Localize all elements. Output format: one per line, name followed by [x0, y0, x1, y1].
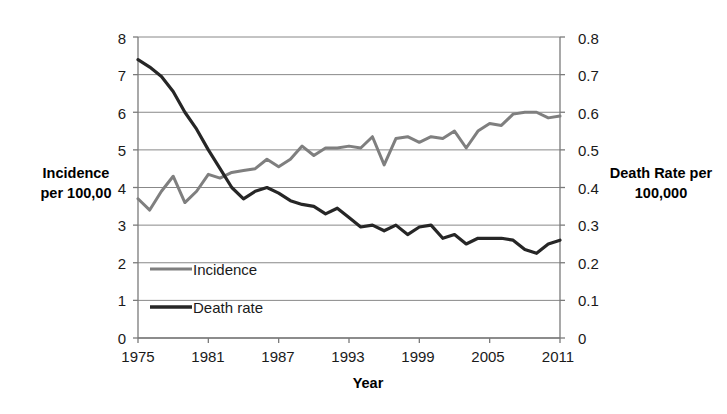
legend-swatches — [150, 269, 192, 307]
gridlines — [138, 37, 560, 338]
data-series — [138, 60, 560, 254]
plot-area — [0, 0, 727, 414]
series-line-incidence — [138, 112, 560, 210]
chart-figure: 8 7 6 5 4 3 2 1 0 0.8 0.7 0.6 0.5 0.4 0.… — [0, 0, 727, 414]
series-line-death-rate — [138, 60, 560, 254]
